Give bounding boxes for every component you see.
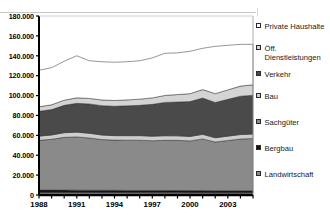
y-axis-tick-label: 180.000 xyxy=(0,12,34,21)
legend-item[interactable]: Private Haushalte xyxy=(256,22,324,31)
legend-swatch-icon xyxy=(256,45,261,50)
legend-swatch-icon xyxy=(256,119,261,124)
legend-item-label: Private Haushalte xyxy=(265,22,325,31)
legend-swatch-icon xyxy=(256,71,261,76)
y-axis-tick-label: 160.000 xyxy=(0,32,34,41)
chart-legend: Private HaushalteÖff. DienstleistungenVe… xyxy=(256,0,330,222)
x-axis-tick-label: 2003 xyxy=(211,200,245,209)
x-axis-tick-label: 1997 xyxy=(135,200,169,209)
y-axis-tick-label: 120.000 xyxy=(0,71,34,80)
legend-swatch-icon xyxy=(256,93,261,98)
legend-item-label: Bau xyxy=(265,92,279,101)
y-axis-tick-label: 0 xyxy=(0,191,34,200)
legend-item-label: Landwirtschaft xyxy=(265,170,314,179)
legend-item-label: Sachgüter xyxy=(265,118,300,127)
y-axis-tick-label: 140.000 xyxy=(0,52,34,61)
plot-area: 180.000160.000140.000120.000100.00080.00… xyxy=(0,0,258,222)
legend-swatch-icon xyxy=(256,171,261,176)
legend-item[interactable]: Landwirtschaft xyxy=(256,170,313,179)
legend-item[interactable]: Sachgüter xyxy=(256,118,299,127)
x-axis-tick-label: 1994 xyxy=(98,200,132,209)
x-axis-tick-label: 1988 xyxy=(22,200,56,209)
legend-item[interactable]: Bau xyxy=(256,92,278,101)
y-axis-tick-label: 60.000 xyxy=(0,131,34,140)
legend-item[interactable]: Öff. Dienstleistungen xyxy=(256,44,321,62)
legend-swatch-icon xyxy=(256,145,261,150)
x-axis-tick-label: 1991 xyxy=(60,200,94,209)
legend-item-label: Bergbau xyxy=(265,144,294,153)
legend-item[interactable]: Verkehr xyxy=(256,70,291,79)
x-axis-tick-label: 2000 xyxy=(173,200,207,209)
y-axis-tick-label: 40.000 xyxy=(0,151,34,160)
chart-figure: 180.000160.000140.000120.000100.00080.00… xyxy=(0,0,330,222)
stacked-area-chart xyxy=(0,0,258,222)
legend-item-label: Verkehr xyxy=(265,70,291,79)
legend-item[interactable]: Bergbau xyxy=(256,144,293,153)
legend-item-label: Öff. Dienstleistungen xyxy=(265,44,321,62)
legend-swatch-icon xyxy=(256,23,261,28)
y-axis-tick-label: 20.000 xyxy=(0,171,34,180)
y-axis-tick-label: 100.000 xyxy=(0,91,34,100)
y-axis-tick-label: 80.000 xyxy=(0,111,34,120)
